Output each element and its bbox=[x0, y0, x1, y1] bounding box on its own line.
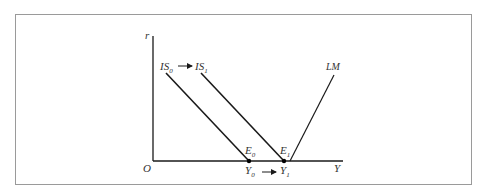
x-axis-label: Y bbox=[334, 162, 342, 174]
is-lm-diagram: r O Y IS0 IS1 LM E0 E1 Y0 Y1 bbox=[0, 0, 486, 194]
y0-label: Y0 bbox=[245, 164, 255, 179]
y-axis-label: r bbox=[145, 29, 150, 41]
is0-curve bbox=[166, 73, 249, 161]
origin-label: O bbox=[143, 162, 151, 174]
is1-curve bbox=[201, 73, 284, 161]
lm-label: LM bbox=[325, 61, 341, 72]
lm-curve bbox=[290, 75, 334, 161]
is0-label: IS0 bbox=[159, 60, 173, 75]
e0-point bbox=[247, 159, 251, 163]
y1-label: Y1 bbox=[280, 164, 290, 179]
is1-label: IS1 bbox=[194, 60, 208, 75]
e1-point bbox=[282, 159, 286, 163]
